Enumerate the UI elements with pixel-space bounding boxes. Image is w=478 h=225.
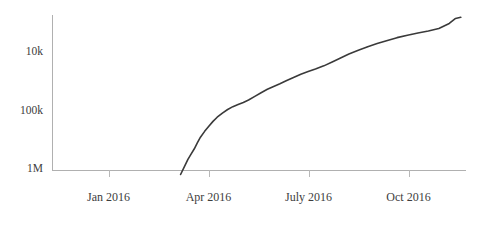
line-chart: 10k100k1M Jan 2016Apr 2016July 2016Oct 2… xyxy=(0,0,478,225)
x-tick-label: Oct 2016 xyxy=(386,190,430,204)
x-axis xyxy=(52,170,466,177)
data-series-group xyxy=(181,17,461,174)
y-tick-label: 100k xyxy=(20,104,43,116)
x-tick-labels: Jan 2016Apr 2016July 2016Oct 2016 xyxy=(87,190,431,204)
chart-container: 10k100k1M Jan 2016Apr 2016July 2016Oct 2… xyxy=(0,0,478,225)
x-tick-label: Jan 2016 xyxy=(87,190,130,204)
x-tick-label: July 2016 xyxy=(285,190,332,204)
y-tick-label: 10k xyxy=(26,45,44,57)
x-tick-label: Apr 2016 xyxy=(186,190,232,204)
y-tick-labels: 10k100k1M xyxy=(20,45,43,174)
y-tick-label: 1M xyxy=(27,162,43,174)
series-line xyxy=(181,17,461,174)
